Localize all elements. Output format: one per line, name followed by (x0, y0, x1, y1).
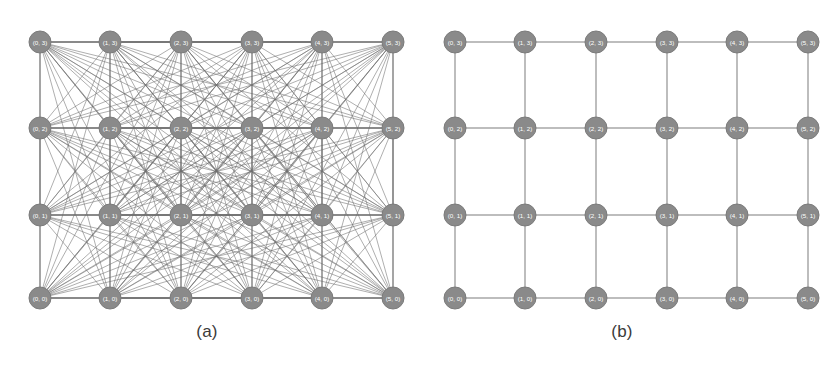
node-circle[interactable] (585, 287, 607, 309)
graph-node[interactable]: (0, 1) (444, 204, 466, 226)
graph-node[interactable]: (1, 2) (99, 117, 121, 139)
node-circle[interactable] (311, 117, 333, 139)
graph-node[interactable]: (0, 0) (444, 287, 466, 309)
graph-node[interactable]: (0, 2) (444, 117, 466, 139)
node-circle[interactable] (99, 117, 121, 139)
node-circle[interactable] (514, 204, 536, 226)
node-circle[interactable] (99, 204, 121, 226)
graph-node[interactable]: (1, 2) (514, 117, 536, 139)
figure-container: (0, 3)(1, 3)(2, 3)(3, 3)(4, 3)(5, 3)(0, … (0, 0, 829, 368)
node-circle[interactable] (797, 204, 819, 226)
graph-node[interactable]: (3, 3) (241, 31, 263, 53)
node-circle[interactable] (656, 31, 678, 53)
node-circle[interactable] (797, 31, 819, 53)
node-circle[interactable] (170, 204, 192, 226)
node-circle[interactable] (311, 287, 333, 309)
node-circle[interactable] (99, 287, 121, 309)
graph-node[interactable]: (5, 0) (382, 287, 404, 309)
graph-node[interactable]: (2, 2) (170, 117, 192, 139)
node-circle[interactable] (382, 287, 404, 309)
graph-node[interactable]: (3, 1) (656, 204, 678, 226)
node-circle[interactable] (444, 204, 466, 226)
node-circle[interactable] (444, 117, 466, 139)
graph-node[interactable]: (2, 1) (585, 204, 607, 226)
node-circle[interactable] (585, 31, 607, 53)
node-circle[interactable] (656, 117, 678, 139)
complete-graph-diagram: (0, 3)(1, 3)(2, 3)(3, 3)(4, 3)(5, 3)(0, … (0, 0, 414, 330)
node-circle[interactable] (170, 117, 192, 139)
graph-node[interactable]: (5, 1) (382, 204, 404, 226)
graph-node[interactable]: (0, 3) (29, 31, 51, 53)
graph-node[interactable]: (3, 3) (656, 31, 678, 53)
grid-lattice-diagram: (0, 3)(1, 3)(2, 3)(3, 3)(4, 3)(5, 3)(0, … (415, 0, 829, 330)
node-circle[interactable] (99, 31, 121, 53)
node-circle[interactable] (656, 204, 678, 226)
node-circle[interactable] (311, 204, 333, 226)
node-circle[interactable] (726, 204, 748, 226)
graph-node[interactable]: (4, 1) (726, 204, 748, 226)
graph-node[interactable]: (2, 2) (585, 117, 607, 139)
graph-node[interactable]: (1, 0) (514, 287, 536, 309)
graph-node[interactable]: (2, 0) (585, 287, 607, 309)
graph-node[interactable]: (5, 3) (797, 31, 819, 53)
graph-node[interactable]: (2, 3) (170, 31, 192, 53)
node-circle[interactable] (514, 117, 536, 139)
graph-node[interactable]: (3, 0) (656, 287, 678, 309)
graph-node[interactable]: (4, 2) (726, 117, 748, 139)
graph-node[interactable]: (4, 3) (726, 31, 748, 53)
graph-node[interactable]: (0, 2) (29, 117, 51, 139)
graph-node[interactable]: (0, 3) (444, 31, 466, 53)
node-circle[interactable] (797, 287, 819, 309)
graph-node[interactable]: (2, 3) (585, 31, 607, 53)
node-circle[interactable] (170, 287, 192, 309)
node-circle[interactable] (797, 117, 819, 139)
node-circle[interactable] (585, 117, 607, 139)
node-circle[interactable] (726, 117, 748, 139)
node-circle[interactable] (382, 204, 404, 226)
node-circle[interactable] (241, 31, 263, 53)
graph-node[interactable]: (1, 3) (99, 31, 121, 53)
graph-node[interactable]: (4, 0) (726, 287, 748, 309)
graph-node[interactable]: (2, 0) (170, 287, 192, 309)
graph-node[interactable]: (5, 2) (797, 117, 819, 139)
graph-node[interactable]: (1, 1) (514, 204, 536, 226)
node-circle[interactable] (29, 287, 51, 309)
graph-node[interactable]: (3, 2) (656, 117, 678, 139)
graph-node[interactable]: (5, 0) (797, 287, 819, 309)
node-circle[interactable] (656, 287, 678, 309)
node-circle[interactable] (585, 204, 607, 226)
graph-node[interactable]: (4, 2) (311, 117, 333, 139)
node-circle[interactable] (444, 31, 466, 53)
node-circle[interactable] (311, 31, 333, 53)
node-circle[interactable] (514, 31, 536, 53)
graph-node[interactable]: (3, 1) (241, 204, 263, 226)
node-circle[interactable] (382, 117, 404, 139)
node-circle[interactable] (726, 31, 748, 53)
node-circle[interactable] (241, 287, 263, 309)
node-circle[interactable] (241, 117, 263, 139)
graph-node[interactable]: (0, 1) (29, 204, 51, 226)
graph-node[interactable]: (5, 1) (797, 204, 819, 226)
node-circle[interactable] (29, 204, 51, 226)
node-circle[interactable] (170, 31, 192, 53)
graph-node[interactable]: (0, 0) (29, 287, 51, 309)
graph-node[interactable]: (3, 0) (241, 287, 263, 309)
node-circle[interactable] (29, 117, 51, 139)
graph-node[interactable]: (5, 3) (382, 31, 404, 53)
graph-node[interactable]: (1, 1) (99, 204, 121, 226)
node-circle[interactable] (444, 287, 466, 309)
node-circle[interactable] (29, 31, 51, 53)
graph-node[interactable]: (1, 0) (99, 287, 121, 309)
graph-node[interactable]: (2, 1) (170, 204, 192, 226)
graph-node[interactable]: (4, 3) (311, 31, 333, 53)
graph-node[interactable]: (5, 2) (382, 117, 404, 139)
node-circle[interactable] (514, 287, 536, 309)
graph-node[interactable]: (4, 0) (311, 287, 333, 309)
node-circle[interactable] (726, 287, 748, 309)
graph-node[interactable]: (3, 2) (241, 117, 263, 139)
graph-node[interactable]: (4, 1) (311, 204, 333, 226)
graph-node[interactable]: (1, 3) (514, 31, 536, 53)
panel-a-caption: (a) (0, 322, 414, 342)
node-circle[interactable] (382, 31, 404, 53)
node-circle[interactable] (241, 204, 263, 226)
